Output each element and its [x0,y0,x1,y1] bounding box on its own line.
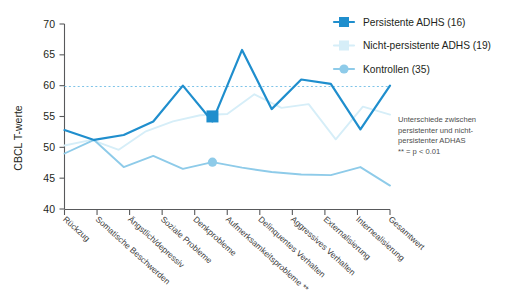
legend-marker-0 [339,17,349,27]
annotation-line-0: Unterschiede zwischen [398,115,476,124]
y-tick-label-45: 45 [43,172,55,184]
legend-item-1[interactable]: Nicht-persistente ADHS (19) [334,40,491,51]
series-marker-0 [206,110,218,122]
cbcl-line-chart: 40455055606570 RückzugSomatische Beschwe… [0,0,522,296]
y-tick-label-60: 60 [43,79,55,91]
x-axis-label-2: Ängstlich/depressiv [126,214,187,270]
legend: Persistente ADHS (16)Nicht-persistente A… [334,17,491,75]
y-tick-label-55: 55 [43,110,55,122]
legend-marker-1 [339,41,349,51]
y-axis-group: 40455055606570 [43,18,64,215]
legend-label-2: Kontrollen (35) [363,64,430,75]
y-tick-label-70: 70 [43,18,55,30]
legend-item-2[interactable]: Kontrollen (35) [334,64,430,75]
x-axis-labels: RückzugSomatische BeschwerdenÄngstlich/d… [61,214,427,294]
annotation-line-3: ** = p < 0.01 [398,147,440,156]
series-line-0 [65,50,391,140]
y-tick-label-50: 50 [43,141,55,153]
x-axis-label-0: Rückzug [61,214,92,243]
y-axis-tick-labels: 40455055606570 [43,18,55,215]
y-tick-label-40: 40 [43,203,55,215]
x-axis-group [65,210,391,216]
series-line-1 [65,94,391,150]
y-axis-ticks [60,24,65,209]
chart-canvas: 40455055606570 RückzugSomatische Beschwe… [0,0,522,296]
legend-label-1: Nicht-persistente ADHS (19) [363,40,491,51]
y-tick-label-65: 65 [43,48,55,60]
annotation-line-1: persistenter und nicht- [398,126,474,135]
x-axis-ticks [65,210,391,216]
legend-label-0: Persistente ADHS (16) [363,17,465,28]
annotation-note: Unterschiede zwischenpersistenter und ni… [398,115,476,156]
annotation-line-2: persistenter ADHAS [398,136,466,145]
y-axis-title: CBCL T-werte [12,105,24,171]
series-line-2 [65,140,391,186]
series-marker-2 [208,158,217,167]
legend-item-0[interactable]: Persistente ADHS (16) [334,17,465,28]
legend-marker-2 [339,64,348,73]
